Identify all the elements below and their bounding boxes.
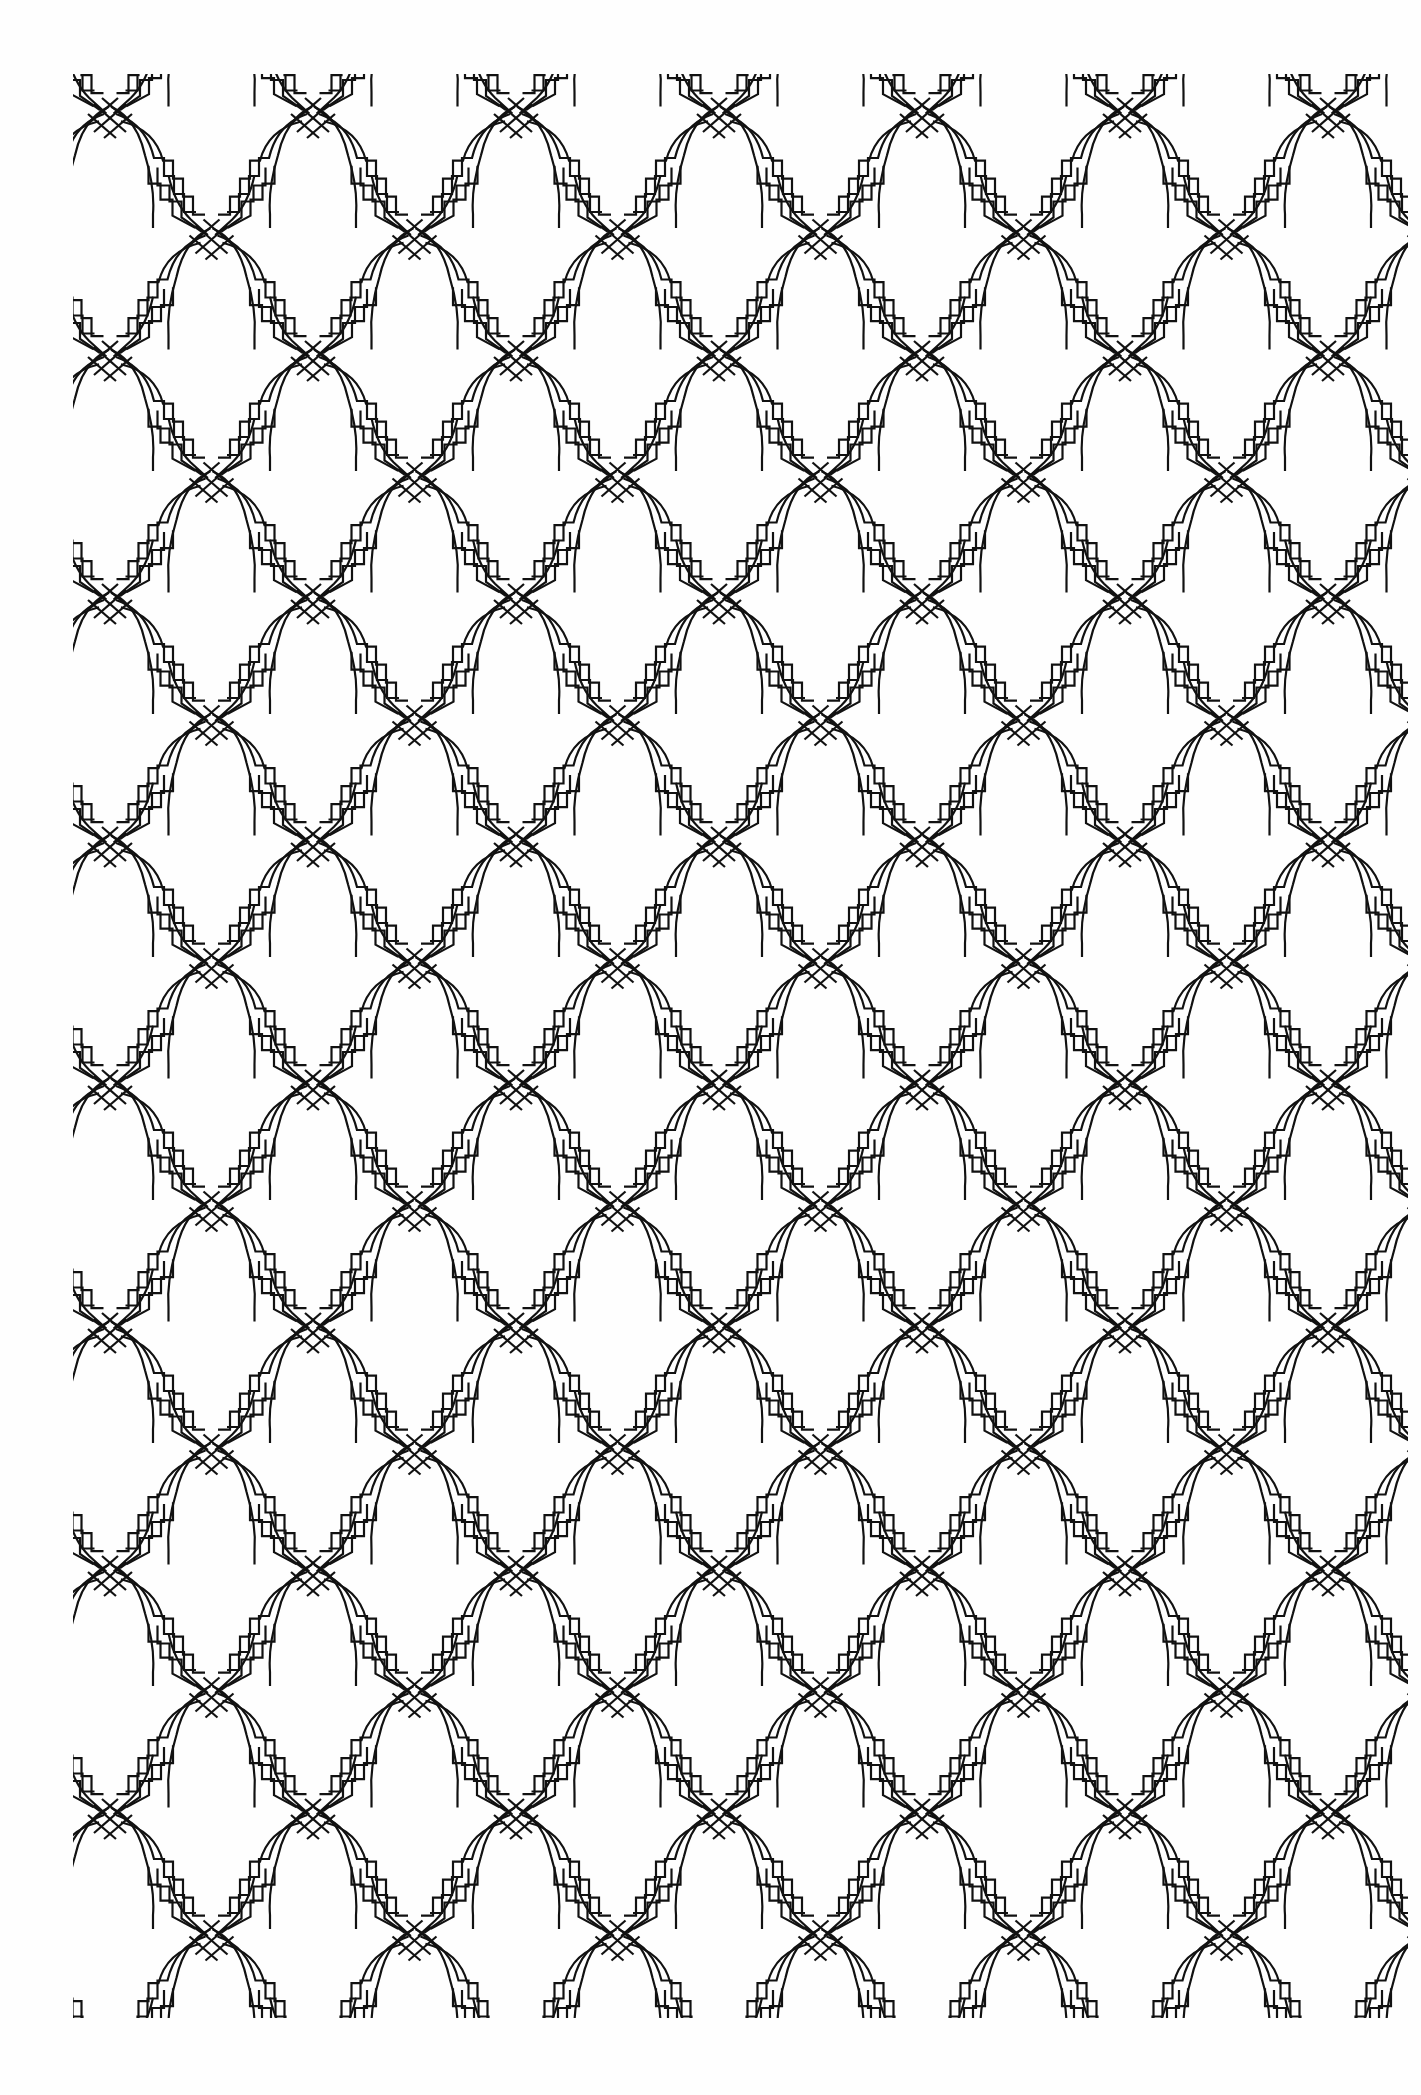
coloring-page: Coloring-book page: interlaced Moorish l… <box>0 0 1421 2095</box>
lattice-svg <box>73 74 1408 2018</box>
interlace-pattern <box>73 74 1408 2018</box>
pattern-fill <box>73 74 1408 2018</box>
